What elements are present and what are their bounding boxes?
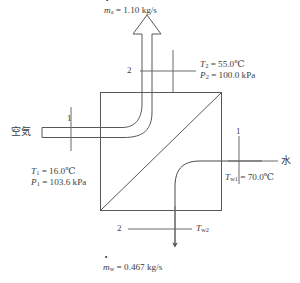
water-fluid-label: 水 bbox=[281, 155, 291, 167]
up-block-arrow-icon bbox=[133, 15, 161, 40]
station-label-water-outlet: 2 bbox=[117, 223, 122, 234]
air-outlet-conditions: T2 = 55.0℃ P2 = 100.0 kPa bbox=[200, 59, 255, 81]
air-mass-flow-subscript: a bbox=[111, 8, 114, 15]
water-mass-flow-subscript: w bbox=[110, 265, 115, 272]
mdot-accent-air: m bbox=[104, 5, 111, 16]
station-label-water-inlet: 1 bbox=[236, 126, 241, 137]
diagonal-plate bbox=[101, 93, 221, 210]
air-inlet-temperature: T1 = 16.0℃ bbox=[31, 166, 86, 177]
water-mass-flow-value: = 0.467 kg/s bbox=[117, 262, 163, 272]
heat-exchanger-figure: ma = 1.10 kg/s 2 T2 = 55.0℃ P2 = 100.0 k… bbox=[0, 0, 300, 283]
water-outlet-temperature: Tw2 bbox=[196, 223, 209, 234]
air-outlet-temperature: T2 = 55.0℃ bbox=[200, 59, 255, 70]
air-mass-flow-value: = 1.10 kg/s bbox=[116, 5, 157, 15]
station-label-air-inlet: 1 bbox=[67, 113, 72, 124]
schematic-drawing bbox=[0, 0, 300, 283]
air-duct-inner-wall bbox=[42, 40, 142, 128]
air-outlet-pressure: P2 = 100.0 kPa bbox=[200, 70, 255, 81]
air-inlet-conditions: T1 = 16.0℃ P1 = 103.6 kPa bbox=[31, 166, 86, 188]
water-mass-flow-label: mw = 0.467 kg/s bbox=[103, 262, 162, 273]
station-label-air-outlet: 2 bbox=[127, 65, 132, 76]
air-mass-flow-label: ma = 1.10 kg/s bbox=[104, 5, 157, 16]
air-fluid-label: 空気 bbox=[11, 126, 31, 138]
water-inlet-temperature: Tw1 = 70.0℃ bbox=[225, 172, 274, 183]
air-inlet-pressure: P1 = 103.6 kPa bbox=[31, 177, 86, 188]
mdot-accent-water: m bbox=[103, 262, 110, 273]
